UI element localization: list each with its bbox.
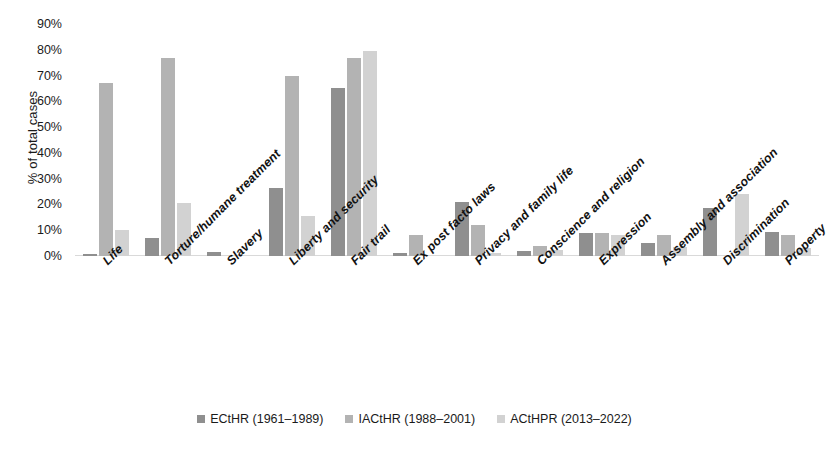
chart-legend: ECtHR (1961–1989)IACtHR (1988–2001)ACtHP… [0,412,829,426]
legend-item[interactable]: ECtHR (1961–1989) [197,412,323,426]
bar [207,252,221,256]
bar [641,243,655,256]
y-axis-tick: 40% [37,147,62,159]
bar-group [385,24,447,256]
legend-item[interactable]: ACtHPR (2013–2022) [497,412,632,426]
x-axis-category-labels: LifeTorture/humane treatmentSlaveryLiber… [75,258,819,388]
legend-label: IACtHR (1988–2001) [358,412,475,426]
bar-group [75,24,137,256]
bar [331,88,345,256]
legend-swatch-icon [497,415,505,423]
bar [145,238,159,256]
y-axis-tick: 30% [37,173,62,185]
y-axis-tick-labels: 90%80%70%60%50%40%30%20%10%0% [0,24,68,256]
legend-item[interactable]: IACtHR (1988–2001) [345,412,475,426]
y-axis-tick: 10% [37,224,62,236]
bar [99,83,113,256]
y-axis-tick: 50% [37,121,62,133]
bar [393,253,407,256]
bar [517,251,531,256]
y-axis-tick: 80% [37,44,62,56]
bar [765,232,779,256]
legend-label: ECtHR (1961–1989) [210,412,323,426]
y-axis-tick: 90% [37,18,62,30]
bar [83,254,97,256]
bar-chart: % of total cases 90%80%70%60%50%40%30%20… [0,0,829,451]
bar-group [261,24,323,256]
bar [347,58,361,256]
bar [161,58,175,256]
legend-swatch-icon [345,415,353,423]
y-axis-tick: 70% [37,70,62,82]
y-axis-tick: 20% [37,198,62,210]
bar [285,76,299,256]
legend-swatch-icon [197,415,205,423]
bar [269,188,283,256]
legend-label: ACtHPR (2013–2022) [510,412,632,426]
y-axis-tick: 0% [44,250,62,262]
bar [579,233,593,256]
y-axis-tick: 60% [37,95,62,107]
bar-group [137,24,199,256]
bar [363,51,377,256]
